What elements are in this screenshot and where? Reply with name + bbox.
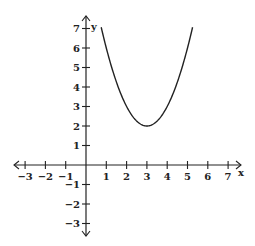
x-axis-label: x [238,167,245,178]
y-tick-label: 7 [73,23,80,34]
y-tick-label: 4 [73,82,80,93]
x-tick-label: 3 [143,171,150,182]
y-tick-label: 1 [73,140,80,151]
parabola-graph: −3−2−11234567 −3−2−11234567 x y [0,0,255,246]
x-tick-label: −2 [38,171,53,182]
y-tick-label: −1 [65,179,80,190]
x-tick-label: 1 [103,171,110,182]
x-tick-label: 2 [123,171,130,182]
y-tick-label: 2 [73,121,80,132]
y-tick-label: −2 [65,199,80,210]
x-tick-label: 4 [164,171,171,182]
y-axis-label: y [90,21,98,32]
y-tick-label: 5 [73,62,80,73]
y-tick-label: 6 [73,43,80,54]
y-tick-label: −3 [65,218,80,229]
x-axis-ticks: −3−2−11234567 [17,161,231,182]
x-tick-label: 7 [225,171,232,182]
x-tick-label: 6 [204,171,211,182]
x-tick-label: −3 [17,171,32,182]
x-tick-label: 5 [184,171,191,182]
parabola-curve [101,27,192,126]
x-axis [14,161,241,169]
y-tick-label: 3 [73,101,80,112]
